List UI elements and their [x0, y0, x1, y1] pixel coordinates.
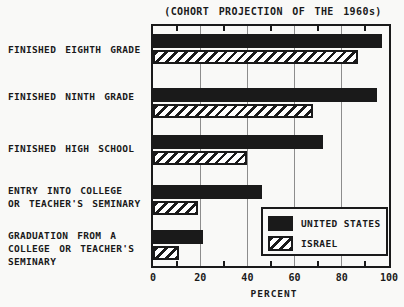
minor-tick-bot-30 — [223, 261, 225, 266]
category-label-line: FINISHED HIGH SCHOOL — [8, 142, 134, 155]
x-tick-label-20: 20 — [194, 272, 206, 283]
bar-group-1 — [153, 88, 377, 118]
legend-label-israel: ISRAEL — [301, 238, 338, 249]
solid-bar-swatch-icon — [268, 216, 293, 231]
minor-tick-top-50 — [270, 26, 272, 31]
category-label-line: SEMINARY — [8, 255, 134, 268]
category-label-line: FINISHED NINTH GRADE — [8, 90, 134, 103]
legend-entry-israel: ISRAEL — [268, 233, 386, 253]
minor-tick-top-90 — [364, 26, 366, 31]
bar-united-states — [153, 230, 203, 244]
category-label-line: COLLEGE OR TEACHER'S — [8, 242, 134, 255]
bar-group-4 — [153, 230, 203, 260]
category-label-2: FINISHED HIGH SCHOOL — [8, 142, 134, 155]
x-tick-label-60: 60 — [289, 272, 301, 283]
hatched-bar-swatch-icon — [268, 236, 293, 251]
legend-label-united-states: UNITED STATES — [301, 218, 381, 229]
bar-israel — [153, 151, 247, 165]
minor-tick-bot-70 — [317, 261, 319, 266]
category-label-4: GRADUATION FROM ACOLLEGE OR TEACHER'SSEM… — [8, 229, 134, 268]
category-label-line: GRADUATION FROM A — [8, 229, 134, 242]
category-label-1: FINISHED NINTH GRADE — [8, 90, 134, 103]
chart-title: (COHORT PROJECTION OF THE 1960s) — [148, 6, 398, 17]
category-label-3: ENTRY INTO COLLEGEOR TEACHER'S SEMINARY — [8, 184, 140, 210]
bar-israel — [153, 246, 179, 260]
category-label-line: OR TEACHER'S SEMINARY — [8, 197, 140, 210]
bar-united-states — [153, 88, 377, 102]
minor-tick-top-10 — [176, 26, 178, 31]
bar-israel — [153, 50, 358, 64]
category-label-0: FINISHED EIGHTH GRADE — [8, 43, 140, 56]
bar-israel — [153, 104, 313, 118]
x-tick-label-100: 100 — [380, 272, 398, 283]
x-tick-label-80: 80 — [336, 272, 348, 283]
minor-tick-bot-50 — [270, 261, 272, 266]
x-tick-label-40: 40 — [241, 272, 253, 283]
legend-entry-united-states: UNITED STATES — [268, 213, 386, 233]
bar-united-states — [153, 135, 323, 149]
figure: (COHORT PROJECTION OF THE 1960s) FINISHE… — [0, 0, 404, 307]
minor-tick-top-30 — [223, 26, 225, 31]
bar-group-2 — [153, 135, 323, 165]
x-tick-label-0: 0 — [150, 272, 156, 283]
category-label-line: FINISHED EIGHTH GRADE — [8, 43, 140, 56]
bar-united-states — [153, 34, 382, 48]
bar-united-states — [153, 185, 262, 199]
bar-group-3 — [153, 185, 262, 215]
bar-group-0 — [153, 34, 382, 64]
minor-tick-bot-10 — [176, 261, 178, 266]
category-label-line: ENTRY INTO COLLEGE — [8, 184, 140, 197]
minor-tick-bot-90 — [364, 261, 366, 266]
x-axis-title: PERCENT — [152, 288, 396, 299]
minor-tick-top-70 — [317, 26, 319, 31]
bar-israel — [153, 201, 198, 215]
legend: UNITED STATES ISRAEL — [261, 207, 388, 256]
